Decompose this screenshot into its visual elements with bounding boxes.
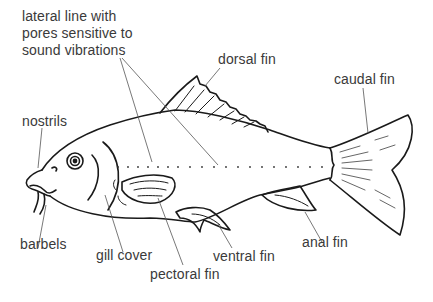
body-outline-top [42, 110, 330, 170]
leader-nostrils [38, 128, 42, 168]
pectoral-fin-ray [134, 188, 166, 190]
eye-pupil [73, 159, 76, 162]
label-barbels: barbels [20, 236, 67, 253]
pectoral-gill-mark [118, 196, 126, 205]
leader-gill [105, 195, 123, 252]
anal-fin-ray [275, 195, 308, 206]
leader-caudal [363, 88, 368, 133]
label-lateral-line: lateral line with pores sensitive to sou… [22, 8, 133, 59]
pectoral-gill-mark [113, 180, 116, 190]
leader-pectoral [158, 198, 183, 265]
gill-arc-inner [88, 155, 98, 200]
label-nostrils: nostrils [22, 113, 67, 130]
label-dorsal-fin: dorsal fin [218, 51, 276, 68]
label-caudal-fin: caudal fin [334, 71, 395, 88]
leader-dorsal [205, 68, 220, 86]
body-outline-bottom [50, 178, 330, 222]
nostril [52, 167, 57, 171]
pectoral-fin-ray [130, 181, 168, 184]
fish-diagram: lateral line with pores sensitive to sou… [0, 0, 433, 302]
barbel-1 [34, 192, 39, 212]
label-pectoral-fin: pectoral fin [150, 266, 220, 283]
label-ventral-fin: ventral fin [213, 248, 275, 265]
caudal-fin-outline [330, 115, 412, 235]
pectoral-fin-outline [122, 175, 175, 203]
lateral-line-dots [117, 166, 323, 168]
ventral-fin-ray [192, 214, 220, 225]
caudal-fin-rays [340, 136, 395, 208]
gill-arc-outer [103, 142, 119, 210]
leader-ventral [218, 224, 232, 248]
peduncle-edge [330, 148, 334, 180]
label-gill-cover: gill cover [96, 247, 152, 264]
label-anal-fin: anal fin [302, 234, 348, 251]
barbel-2 [40, 194, 45, 214]
